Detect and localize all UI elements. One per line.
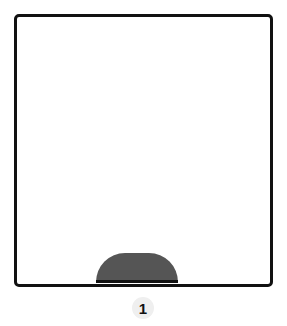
panel-number: 1 bbox=[139, 300, 147, 317]
panel-number-badge: 1 bbox=[132, 297, 154, 319]
panel-frame bbox=[14, 14, 273, 287]
semicircle-base-line bbox=[96, 280, 178, 283]
semicircle-shape bbox=[96, 253, 178, 282]
